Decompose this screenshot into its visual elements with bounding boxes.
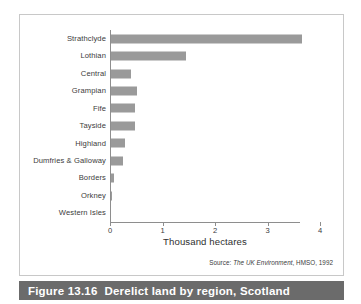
source-prefix: Source:	[209, 259, 231, 266]
bar-row: Strathclyde	[20, 30, 320, 47]
bar	[110, 87, 137, 96]
x-tick-label: 0	[108, 227, 112, 235]
bar-track	[110, 65, 320, 82]
bar-rows: StrathclydeLothianCentralGrampianFifeTay…	[20, 30, 320, 222]
bar-row: Highland	[20, 135, 320, 152]
x-axis-title: Thousand hectares	[110, 236, 300, 247]
figure-number: Figure 13.16	[28, 285, 98, 297]
plot-area: StrathclydeLothianCentralGrampianFifeTay…	[20, 30, 320, 222]
bar-track	[110, 135, 320, 152]
bar	[110, 69, 131, 78]
bar-row: Grampian	[20, 82, 320, 99]
bar-track	[110, 30, 320, 47]
x-tick-label: 1	[160, 227, 164, 235]
bar-track	[110, 82, 320, 99]
bar-track	[110, 117, 320, 134]
bar-row: Tayside	[20, 117, 320, 134]
bar	[110, 156, 123, 165]
bar-row: Dumfries & Galloway	[20, 152, 320, 169]
figure-title: Derelict land by region, Scotland	[105, 285, 291, 297]
bar	[110, 104, 135, 113]
category-label: Strathclyde	[20, 35, 110, 43]
x-tick-label: 2	[213, 227, 217, 235]
x-tick-label: 3	[265, 227, 269, 235]
category-label: Fife	[20, 105, 110, 113]
source-suffix: , HMSO, 1992	[293, 259, 334, 266]
figure-caption-bar: Figure 13.16 Derelict land by region, Sc…	[19, 281, 344, 300]
bar-track	[110, 187, 320, 204]
bar-track	[110, 47, 320, 64]
figure-container: StrathclydeLothianCentralGrampianFifeTay…	[0, 0, 361, 304]
bar-track	[110, 204, 320, 221]
category-label: Orkney	[20, 192, 110, 200]
category-label: Highland	[20, 140, 110, 148]
category-label: Dumfries & Galloway	[20, 157, 110, 165]
bar-track	[110, 152, 320, 169]
category-label: Borders	[20, 174, 110, 182]
x-tick-label: 4	[318, 227, 322, 235]
bar-track	[110, 100, 320, 117]
bar	[110, 139, 125, 148]
category-label: Lothian	[20, 52, 110, 60]
category-label: Central	[20, 70, 110, 78]
bar-row: Lothian	[20, 47, 320, 64]
category-label: Tayside	[20, 122, 110, 130]
bar-row: Orkney	[20, 187, 320, 204]
category-label: Grampian	[20, 87, 110, 95]
bar-row: Borders	[20, 170, 320, 187]
bar-row: Central	[20, 65, 320, 82]
source-title: The UK Environment	[233, 259, 292, 266]
bar	[110, 52, 186, 61]
x-axis-line	[110, 222, 300, 223]
bar-track	[110, 170, 320, 187]
category-label: Western Isles	[20, 209, 110, 217]
bar	[110, 121, 135, 130]
source-note: Source: The UK Environment, HMSO, 1992	[20, 259, 333, 266]
value-axis-spine	[110, 30, 111, 222]
bar-row: Western Isles	[20, 204, 320, 221]
bar	[110, 34, 302, 43]
bar-row: Fife	[20, 100, 320, 117]
